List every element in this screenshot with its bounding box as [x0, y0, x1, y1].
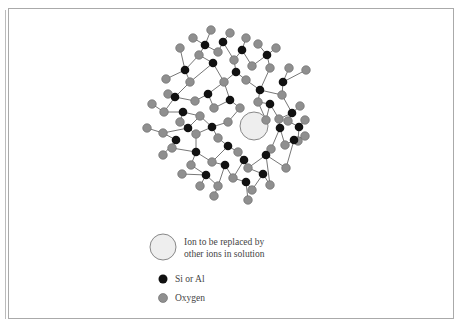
legend-icons: [150, 234, 176, 303]
oxygen-atom: [207, 26, 216, 35]
oxygen-atom: [214, 134, 223, 143]
oxygen-atom: [278, 91, 287, 100]
oxygen-atom: [284, 117, 293, 126]
oxygen-atom: [229, 174, 238, 183]
si-al-atom: [295, 123, 304, 132]
oxygen-atom: [208, 158, 217, 167]
si-al-atom: [242, 178, 251, 187]
oxygen-atom: [248, 186, 257, 195]
oxygen-atom: [248, 62, 257, 71]
ion-legend-icon: [150, 234, 176, 260]
oxygen-atom: [189, 34, 198, 43]
oxygen-atom: [266, 181, 275, 190]
oxygen-atom: [186, 78, 195, 87]
zeolite-structure-diagram: [0, 0, 465, 331]
si-al-atom: [226, 96, 235, 105]
si-al-atom: [221, 161, 230, 170]
oxygen-atom: [159, 151, 168, 160]
atoms-layer: [143, 26, 311, 205]
si-al-atom: [172, 136, 181, 145]
oxygen-atom: [162, 75, 171, 84]
si-al-atom: [202, 171, 211, 180]
oxygen-atom: [234, 148, 243, 157]
oxygen-atom: [191, 97, 200, 106]
oxygen-atom: [176, 44, 185, 53]
si-al-atom: [263, 51, 272, 60]
si-al-atom: [224, 142, 233, 151]
oxygen-atom: [178, 170, 187, 179]
oxygen-atom: [214, 48, 223, 57]
oxygen-atom: [168, 144, 177, 153]
oxygen-atom: [187, 161, 196, 170]
oxygen-atom: [143, 124, 152, 133]
oxygen-legend-icon: [159, 294, 168, 303]
oxygen-atom: [244, 164, 253, 173]
si-al-atom: [232, 68, 241, 77]
oxygen-atom: [214, 182, 223, 191]
oxygen-atom: [192, 130, 201, 139]
si-al-atom: [219, 38, 228, 47]
si-al-atom: [290, 136, 299, 145]
oxygen-atom: [224, 118, 233, 127]
ion-legend-label: Ion to be replaced by other ions in solu…: [184, 236, 265, 260]
si-al-atom: [179, 108, 188, 117]
si-al-atom: [201, 41, 210, 50]
si-al-atom: [209, 59, 218, 68]
oxygen-atom: [226, 29, 235, 38]
oxygen-atom: [275, 115, 284, 124]
ion-legend-line1: Ion to be replaced by: [184, 236, 265, 248]
si-al-atom: [288, 109, 297, 118]
si-al-atom: [238, 46, 247, 55]
bonds-layer: [147, 30, 306, 200]
si-al-atom: [208, 123, 217, 132]
si-al-atom: [279, 78, 288, 87]
oxygen-legend-label: Oxygen: [175, 292, 205, 304]
si-al-atom: [240, 156, 249, 165]
oxygen-atom: [254, 98, 263, 107]
si-legend-label: Si or Al: [175, 273, 205, 285]
si-legend-icon: [159, 275, 168, 284]
oxygen-atom: [176, 118, 185, 127]
oxygen-atom: [210, 192, 219, 201]
oxygen-atom: [301, 132, 310, 141]
oxygen-atom: [160, 108, 169, 117]
oxygen-atom: [266, 64, 275, 73]
si-al-atom: [266, 100, 275, 109]
oxygen-atom: [296, 102, 305, 111]
oxygen-atom: [301, 116, 310, 125]
oxygen-atom: [230, 56, 239, 65]
si-al-atom: [192, 148, 201, 157]
oxygen-atom: [220, 78, 229, 87]
oxygen-atom: [242, 76, 251, 85]
oxygen-atom: [281, 141, 290, 150]
oxygen-atom: [272, 44, 281, 53]
ion-legend-line2: other ions in solution: [184, 248, 265, 260]
si-al-atom: [276, 124, 285, 133]
si-al-atom: [262, 151, 271, 160]
oxygen-atom: [196, 182, 205, 191]
oxygen-atom: [242, 34, 251, 43]
oxygen-atom: [285, 64, 294, 73]
si-al-atom: [181, 66, 190, 75]
oxygen-atom: [196, 112, 205, 121]
oxygen-atom: [236, 104, 245, 113]
oxygen-atom: [282, 164, 291, 173]
oxygen-atom: [210, 104, 219, 113]
si-al-atom: [256, 86, 265, 95]
si-al-atom: [204, 90, 213, 99]
oxygen-atom: [262, 116, 271, 125]
oxygen-atom: [195, 51, 204, 60]
oxygen-atom: [302, 66, 311, 75]
oxygen-atom: [244, 196, 253, 205]
oxygen-atom: [159, 129, 168, 138]
oxygen-atom: [148, 100, 157, 109]
si-al-atom: [259, 170, 268, 179]
si-al-atom: [171, 93, 180, 102]
oxygen-atom: [254, 40, 263, 49]
si-al-atom: [184, 124, 193, 133]
